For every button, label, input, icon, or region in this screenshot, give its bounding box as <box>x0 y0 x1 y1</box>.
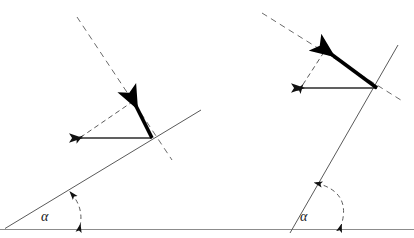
left-resultant-vector <box>135 103 153 138</box>
left-dashed-component-line <box>81 101 134 137</box>
right-angle-arc <box>316 183 344 226</box>
diagram-canvas <box>0 0 414 238</box>
left-angle-arc <box>71 193 81 226</box>
angle-label-alpha-right: α <box>300 210 307 224</box>
right-incline-line <box>290 45 398 233</box>
right-panel <box>262 13 404 233</box>
vector-diagram-figure: α α <box>0 0 414 238</box>
angle-label-alpha-left: α <box>41 210 48 224</box>
left-incline-line <box>5 110 201 229</box>
right-resultant-vector <box>329 53 377 89</box>
left-panel <box>5 17 201 229</box>
right-dashed-component-line <box>302 52 324 86</box>
